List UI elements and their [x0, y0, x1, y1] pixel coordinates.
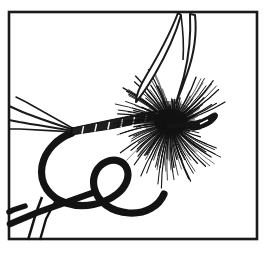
fly-illustration: Dry fly tied on hook: [0, 0, 272, 255]
fly-drawing-canvas: [0, 0, 272, 255]
body-tail-wrap: [71, 127, 72, 135]
canvas-background: [0, 0, 272, 255]
hackle-core-halo: [143, 101, 195, 139]
